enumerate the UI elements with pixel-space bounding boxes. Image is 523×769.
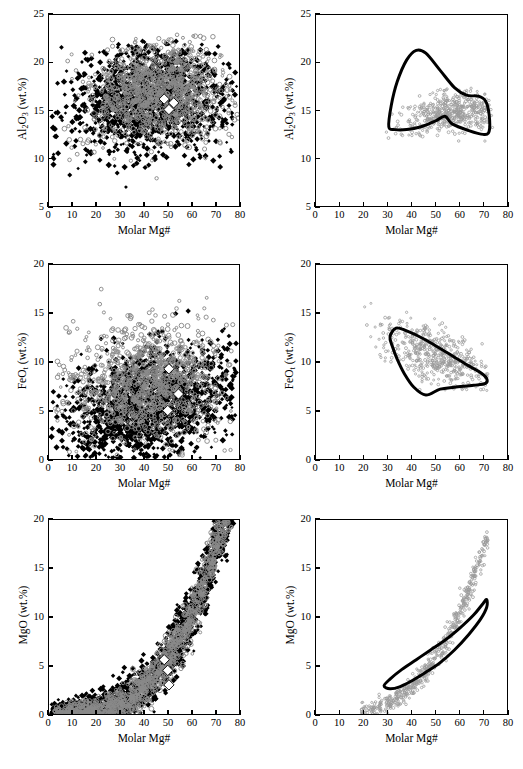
y-axis-title-text: Al2O3 (wt.%) <box>283 80 297 140</box>
y-tick-mark <box>315 13 320 14</box>
data-point <box>473 363 475 365</box>
data-point <box>389 323 391 325</box>
x-tick-mark <box>167 455 168 460</box>
data-point <box>50 426 55 431</box>
data-point <box>192 449 196 453</box>
scatter-canvas-mgo-global <box>49 520 239 714</box>
x-axis-title: Molar Mg# <box>118 732 171 744</box>
x-tick-label: 50 <box>163 210 174 221</box>
data-point <box>205 439 210 444</box>
data-point <box>160 46 163 49</box>
data-point <box>414 373 416 375</box>
data-point <box>133 326 137 330</box>
data-point <box>111 335 117 341</box>
data-point <box>435 107 437 109</box>
data-point <box>207 57 210 60</box>
data-point <box>421 129 423 131</box>
data-point <box>439 338 441 340</box>
data-point <box>184 345 188 349</box>
data-point <box>231 99 234 102</box>
data-point <box>466 374 468 376</box>
y-tick-mark <box>315 410 320 411</box>
x-axis-title: Molar Mg# <box>118 224 171 236</box>
y-tick-mark <box>48 410 53 411</box>
data-point <box>463 597 465 599</box>
data-point <box>97 59 103 65</box>
data-point <box>486 547 489 550</box>
data-point <box>233 358 238 363</box>
data-point <box>384 316 387 319</box>
data-point <box>225 141 228 144</box>
data-point <box>212 58 217 63</box>
data-point <box>478 377 481 380</box>
data-point <box>204 141 208 145</box>
data-point <box>178 299 181 302</box>
x-tick-mark <box>215 710 216 715</box>
data-point <box>414 364 416 366</box>
data-point <box>462 355 464 357</box>
y-tick-mark <box>48 62 53 63</box>
data-point <box>120 57 124 61</box>
y-tick-mark <box>48 714 53 715</box>
data-point <box>478 551 480 553</box>
data-point <box>63 394 67 398</box>
x-axis-title: Molar Mg# <box>385 224 438 236</box>
data-point <box>71 395 76 400</box>
data-point <box>230 135 233 138</box>
data-point <box>88 63 93 68</box>
data-point <box>444 369 446 371</box>
data-point <box>411 364 414 367</box>
data-point <box>217 154 222 159</box>
data-point <box>155 177 158 180</box>
x-tick-label: 10 <box>67 463 78 474</box>
data-point <box>434 97 437 100</box>
data-point <box>458 132 460 134</box>
data-point <box>75 152 79 156</box>
data-point <box>443 332 445 334</box>
data-point <box>410 317 412 319</box>
data-point <box>151 446 155 450</box>
data-point <box>121 164 127 170</box>
data-point <box>471 98 473 100</box>
data-point <box>439 324 441 326</box>
data-point <box>196 438 200 442</box>
data-point <box>446 621 448 623</box>
data-point <box>408 350 410 352</box>
data-point <box>411 672 414 675</box>
data-point <box>135 142 138 145</box>
data-point <box>437 356 440 359</box>
data-point <box>435 368 437 370</box>
x-tick-mark <box>363 202 364 207</box>
x-tick-mark <box>507 202 508 207</box>
y-tick-label: 15 <box>22 308 44 319</box>
data-point <box>473 583 475 585</box>
data-point <box>67 371 70 374</box>
data-point <box>398 348 400 350</box>
data-point <box>435 357 437 359</box>
data-point <box>186 338 190 342</box>
data-point <box>179 130 183 134</box>
data-point <box>171 43 176 48</box>
data-point <box>175 33 179 37</box>
data-point <box>378 693 381 696</box>
data-point <box>392 706 395 709</box>
data-point <box>188 40 191 43</box>
data-point <box>411 113 414 116</box>
y-axis-title: MgO (wt.%) <box>260 609 320 621</box>
data-point <box>229 149 234 154</box>
data-point <box>49 434 55 440</box>
data-point <box>196 378 199 381</box>
y-tick-label: 5 <box>289 406 311 417</box>
data-point <box>116 328 121 333</box>
x-tick-label: 20 <box>358 718 369 729</box>
x-tick-mark <box>71 202 72 207</box>
data-point <box>365 324 368 327</box>
x-tick-label: 20 <box>358 463 369 474</box>
x-tick-mark <box>483 202 484 207</box>
data-point <box>470 374 473 377</box>
data-point <box>467 381 470 384</box>
data-point <box>227 74 232 79</box>
data-point <box>178 356 182 360</box>
y-tick-mark <box>315 714 320 715</box>
x-tick-label: 50 <box>430 718 441 729</box>
